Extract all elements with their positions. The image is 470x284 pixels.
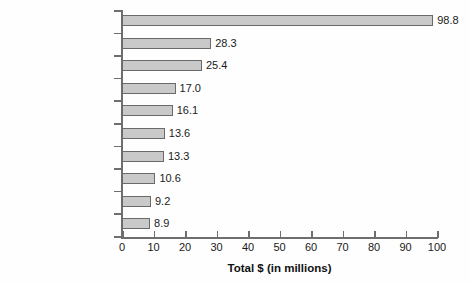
y-axis-tick (114, 10, 122, 12)
bar (122, 151, 164, 162)
bar-chart: Insurance98.8Party Committees28.3General… (0, 0, 470, 284)
y-axis-tick (114, 55, 122, 57)
bar-value-label: 9.2 (155, 195, 170, 208)
bar (122, 128, 165, 139)
bar (122, 60, 202, 71)
bar (122, 218, 150, 229)
y-axis-tick (114, 168, 122, 170)
x-axis-tick (311, 231, 313, 238)
bar-value-label: 13.6 (169, 127, 190, 140)
y-axis-tick (114, 146, 122, 148)
y-axis-tick (114, 33, 122, 35)
x-axis-tick (437, 231, 439, 238)
x-axis-title: Total $ (in millions) (121, 262, 438, 274)
bar (122, 15, 433, 26)
bar-value-label: 8.9 (154, 217, 169, 230)
bar-value-label: 25.4 (206, 59, 227, 72)
bar (122, 173, 155, 184)
x-axis-tick (374, 231, 376, 238)
plot-area: Insurance98.8Party Committees28.3General… (0, 0, 470, 284)
y-axis-tick (114, 100, 122, 102)
x-axis-tick (280, 231, 282, 238)
y-axis-tick (114, 236, 122, 238)
x-axis-tick (343, 231, 345, 238)
x-axis-tick (217, 231, 219, 238)
x-axis-tick (122, 231, 124, 238)
bar-value-label: 28.3 (215, 37, 236, 50)
y-axis-tick (114, 123, 122, 125)
bar (122, 105, 173, 116)
y-axis-tick (114, 213, 122, 215)
bar-value-label: 17.0 (180, 82, 201, 95)
bar (122, 38, 211, 49)
x-axis-tick (248, 231, 250, 238)
x-axis-tick (185, 231, 187, 238)
bar (122, 196, 151, 207)
x-axis-tick-label: 100 (417, 241, 457, 253)
bar-value-label: 16.1 (177, 104, 198, 117)
x-axis-tick (406, 231, 408, 238)
bar-value-label: 13.3 (168, 150, 189, 163)
y-axis-tick (114, 78, 122, 80)
x-axis-tick (154, 231, 156, 238)
y-axis-tick (114, 191, 122, 193)
bar-value-label: 98.8 (437, 14, 458, 27)
bar-value-label: 10.6 (159, 172, 180, 185)
bar (122, 83, 176, 94)
